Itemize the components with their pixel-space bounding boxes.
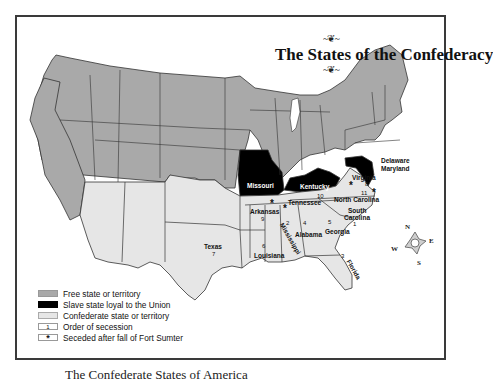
compass-n: N: [405, 223, 410, 231]
compass-rose-icon: [400, 228, 430, 258]
title-ornament-bottom: ~❦~: [323, 64, 339, 75]
secession-number-ms: 2: [286, 220, 289, 226]
legend-swatch-star: *: [38, 334, 58, 341]
legend-item-confederate: Confederate state or territory: [38, 310, 183, 321]
compass-s: S: [417, 259, 421, 267]
star-virginia: *: [349, 180, 353, 191]
map-caption: The Confederate States of America: [65, 367, 248, 381]
label-delaware: Delaware: [381, 157, 410, 164]
label-georgia: Georgia: [325, 228, 350, 235]
title-ornament-top: ~❦~: [323, 33, 339, 44]
legend-swatch-confederate: [38, 312, 58, 319]
label-south-carolina-2: Carolina: [344, 214, 370, 221]
label-texas: Texas: [204, 243, 222, 250]
legend-label: Slave state loyal to the Union: [63, 300, 170, 310]
legend-swatch-slave: [38, 301, 58, 308]
legend-swatch-free: [38, 290, 58, 297]
compass-w: W: [391, 245, 398, 253]
label-louisiana: Louisiana: [254, 252, 284, 259]
star-arkansas: *: [270, 198, 274, 209]
label-missouri: Missouri: [247, 182, 274, 189]
legend-label: Seceded after fall of Fort Sumter: [63, 333, 183, 343]
label-virginia: Virginia: [352, 174, 376, 181]
secession-number-fl: 3: [341, 253, 344, 259]
star-tennessee: *: [283, 203, 287, 214]
legend-label: Free state or territory: [63, 289, 140, 299]
secession-number-nc: 11: [361, 190, 367, 196]
secession-number-va: 8: [365, 181, 368, 187]
legend-label: Confederate state or territory: [63, 311, 169, 321]
legend-swatch-order: 1: [38, 323, 58, 330]
label-tennessee: Tennessee: [288, 199, 321, 206]
label-alabama: Alabama: [295, 231, 322, 238]
secession-number-sc: 1: [353, 221, 356, 227]
legend: Free state or territory Slave state loya…: [38, 288, 183, 343]
secession-number-ga: 5: [328, 219, 331, 225]
legend-item-order: 1 Order of secession: [38, 321, 183, 332]
compass-e: E: [429, 237, 434, 245]
secession-number-al: 4: [303, 220, 306, 226]
legend-item-star: * Seceded after fall of Fort Sumter: [38, 332, 183, 343]
legend-item-free: Free state or territory: [38, 288, 183, 299]
label-kentucky: Kentucky: [300, 183, 329, 190]
label-maryland: Maryland: [381, 165, 410, 172]
legend-item-slave: Slave state loyal to the Union: [38, 299, 183, 310]
label-arkansas: Arkansas: [250, 208, 279, 215]
secession-number-tn: 10: [317, 193, 324, 199]
secession-number-la: 6: [262, 243, 265, 249]
secession-number-ar: 9: [261, 216, 264, 222]
secession-number-tx: 7: [212, 251, 215, 257]
label-south-carolina-1: South: [348, 207, 366, 214]
map-title: The States of the Confederacy: [275, 45, 493, 65]
legend-label: Order of secession: [63, 322, 133, 332]
star-north-carolina: *: [372, 187, 376, 198]
